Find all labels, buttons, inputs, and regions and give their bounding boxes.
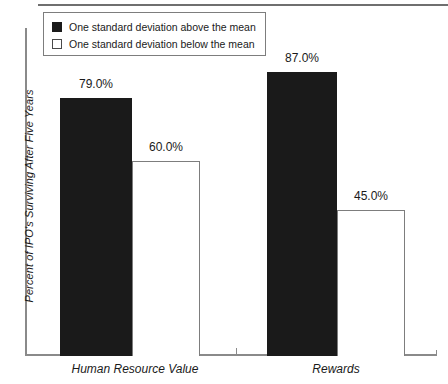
bar-label-rewards-above-mean: 87.0% [262, 51, 342, 65]
x-axis-category-label-human-resource-value: Human Resource Value [40, 362, 230, 376]
chart-legend: One standard deviation above the mean On… [43, 12, 266, 56]
y-axis-title: Percent of IPO's Surviving After Five Ye… [23, 71, 35, 321]
bar-human-resource-value-above-mean [60, 98, 132, 356]
legend-swatch-hollow-icon [52, 39, 62, 49]
bar-label-rewards-below-mean: 45.0% [331, 189, 411, 203]
legend-swatch-filled-icon [52, 22, 62, 32]
bar-human-resource-value-below-mean [132, 161, 200, 356]
bar-rewards-below-mean [337, 210, 405, 356]
x-axis-tick-end [436, 350, 437, 356]
bar-label-human-resource-value-below-mean: 60.0% [126, 140, 206, 154]
legend-item-below-mean: One standard deviation below the mean [52, 35, 265, 52]
bar-rewards-above-mean [267, 72, 337, 356]
legend-item-above-mean: One standard deviation above the mean [52, 18, 265, 35]
legend-label-below-mean: One standard deviation below the mean [69, 38, 255, 50]
x-axis-tick-group-separator [236, 348, 237, 356]
legend-label-above-mean: One standard deviation above the mean [69, 21, 256, 33]
chart-figure: Percent of IPO's Surviving After Five Ye… [0, 0, 448, 384]
x-axis-category-label-rewards: Rewards [276, 362, 396, 376]
bar-label-human-resource-value-above-mean: 79.0% [56, 77, 136, 91]
top-divider-rule [38, 4, 448, 6]
